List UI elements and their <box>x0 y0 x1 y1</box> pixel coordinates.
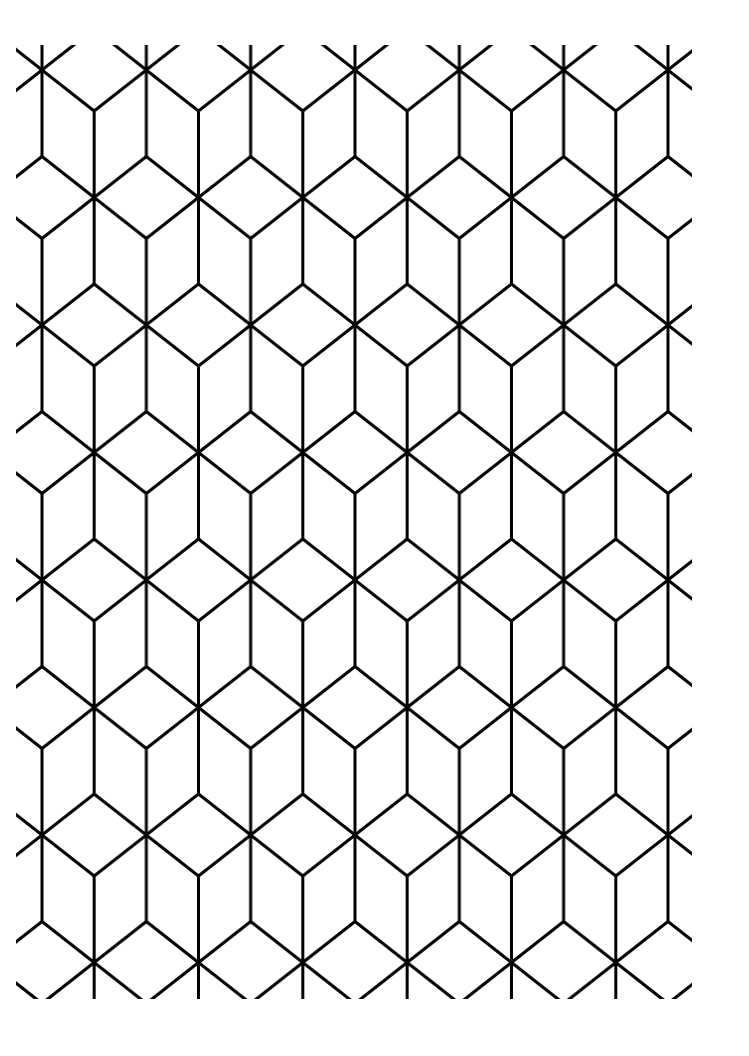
geometric-cube-pattern <box>0 0 749 1056</box>
pattern-area <box>0 0 749 1056</box>
